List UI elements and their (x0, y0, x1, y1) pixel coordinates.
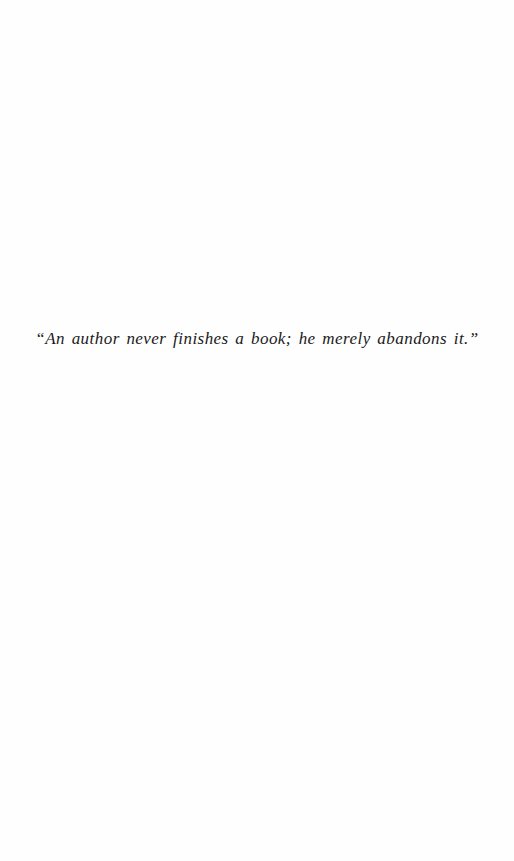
epigraph-quote: “An author never finishes a book; he mer… (0, 328, 514, 350)
book-page: “An author never finishes a book; he mer… (0, 0, 514, 861)
